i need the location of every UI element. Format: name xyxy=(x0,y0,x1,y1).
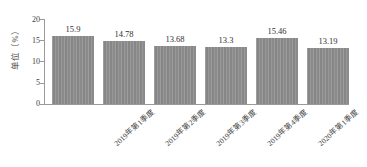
y-tick-mark-20 xyxy=(40,19,44,20)
bar: 13.68 xyxy=(154,46,196,104)
bar-value-label: 13.3 xyxy=(191,36,261,45)
bar: 15.46 xyxy=(256,38,298,104)
plot-area: 15.9 14.78 13.68 13.3 15.46 13.19 xyxy=(45,19,349,104)
y-tick-label-5: 5 xyxy=(24,79,40,87)
x-axis-category-label-3: 2019年第3季度 xyxy=(215,108,258,148)
x-axis-category-label-5: 2020年第1季度 xyxy=(317,108,360,148)
bar-chart: 单位（%） 20 15 10 5 0 15.9 14.78 13.68 xyxy=(0,0,367,167)
x-axis-category-label-4: 2019年第4季度 xyxy=(266,108,309,148)
bar-slot: 15.46 xyxy=(256,19,298,104)
y-tick-mark-15 xyxy=(40,40,44,41)
bar-value-label: 15.46 xyxy=(242,27,312,36)
y-tick-mark-5 xyxy=(40,83,44,84)
bar-value-label: 13.19 xyxy=(293,37,363,46)
bar: 13.19 xyxy=(307,48,349,104)
bar: 13.3 xyxy=(205,47,247,104)
bar-slot: 15.9 xyxy=(52,19,94,104)
x-axis-category-label-2: 2019年第2季度 xyxy=(164,108,207,148)
y-axis-title: 单位（%） xyxy=(8,17,20,79)
bar-slot: 13.19 xyxy=(307,19,349,104)
x-axis-line xyxy=(44,104,349,105)
y-tick-mark-0 xyxy=(40,104,44,105)
y-tick-label-0: 0 xyxy=(24,100,40,108)
y-tick-mark-10 xyxy=(40,61,44,62)
x-axis-category-label-1: 2019年第1季度 xyxy=(113,108,156,148)
y-tick-label-10: 10 xyxy=(24,58,40,66)
y-tick-label-15: 15 xyxy=(24,37,40,45)
bar-slot: 13.3 xyxy=(205,19,247,104)
bar-slot: 13.68 xyxy=(154,19,196,104)
bar-slot: 14.78 xyxy=(103,19,145,104)
y-tick-label-20: 20 xyxy=(24,16,40,24)
bar: 15.9 xyxy=(52,36,94,104)
bar: 14.78 xyxy=(103,41,145,104)
